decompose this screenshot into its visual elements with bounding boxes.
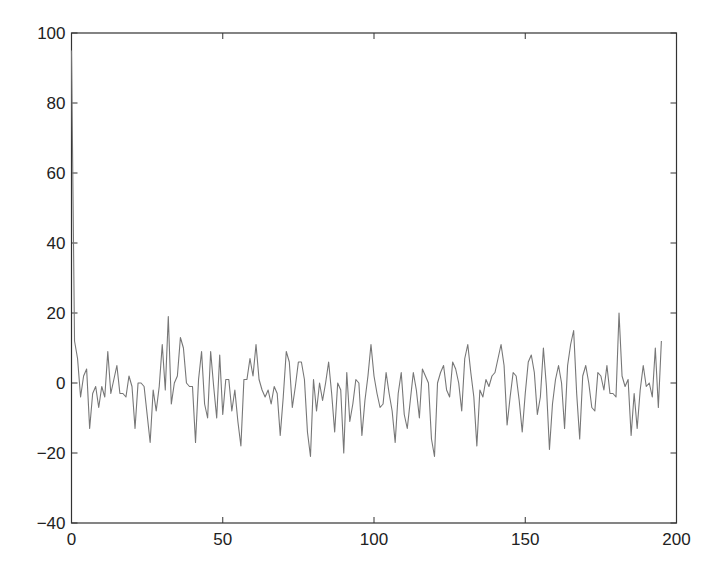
x-axis-tick-labels: 050100150200 [67, 530, 691, 549]
y-tick-label: 40 [47, 234, 66, 253]
plot-frame [72, 33, 677, 523]
y-tick-label: 80 [47, 94, 66, 113]
line-chart: 050100150200 −40−20020406080100 [0, 0, 717, 584]
y-tick-label: −20 [37, 444, 66, 463]
y-tick-label: −40 [37, 514, 66, 533]
x-tick-label: 200 [662, 530, 690, 549]
y-tick-label: 20 [47, 304, 66, 323]
y-tick-label: 0 [56, 374, 65, 393]
signal-line [72, 51, 662, 457]
y-tick-label: 60 [47, 164, 66, 183]
x-tick-label: 0 [67, 530, 76, 549]
x-tick-label: 50 [213, 530, 232, 549]
y-tick-label: 100 [37, 24, 65, 43]
y-axis-tick-labels: −40−20020406080100 [37, 24, 66, 533]
x-tick-label: 150 [511, 530, 539, 549]
axis-ticks [72, 33, 677, 523]
x-tick-label: 100 [360, 530, 388, 549]
